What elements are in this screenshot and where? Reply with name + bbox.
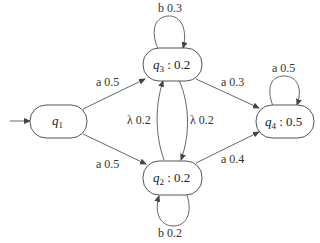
edge-q3-self [154,16,184,49]
node-q2[interactable]: q2 : 0.2 [143,161,202,195]
edge-label-q2-q4: a 0.4 [221,152,244,166]
node-label-q4: q4 : 0.5 [265,114,302,131]
edge-label-q1-q2: a 0.5 [96,157,119,171]
edge-label-q2-q3: λ 0.2 [127,113,151,127]
edge-q4-self [270,76,300,106]
edge-label-q1-q3: a 0.5 [96,75,119,89]
node-label-q3: q3 : 0.2 [153,57,190,74]
edge-label-q2-self: b 0.2 [158,226,182,240]
edge-label-q3-q4: a 0.3 [221,75,244,89]
node-q3[interactable]: q3 : 0.2 [143,48,202,81]
node-q4[interactable]: q4 : 0.5 [256,105,314,138]
edge-q2-q3 [157,81,164,160]
edge-label-q3-q2: λ 0.2 [190,113,214,127]
edge-q2-self [157,195,189,226]
automaton-diagram: a 0.5 a 0.5 b 0.3 b 0.2 λ 0.2 λ 0.2 a 0.… [0,0,320,243]
edge-label-q4-self: a 0.5 [272,61,295,75]
node-q1[interactable]: q1 [30,105,87,138]
edge-q3-q2 [179,80,188,160]
edge-label-q3-self: b 0.3 [158,1,182,15]
node-label-q2: q2 : 0.2 [153,170,190,187]
